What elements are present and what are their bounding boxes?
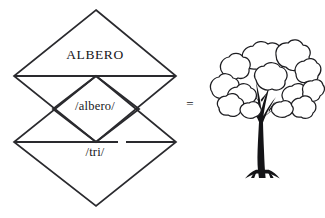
tree-illustration bbox=[210, 40, 324, 179]
phonetic-label: /tri/ bbox=[0, 146, 190, 159]
equals-sign: = bbox=[179, 97, 201, 110]
phonemic-label: /albero/ bbox=[0, 100, 190, 113]
word-label: ALBERO bbox=[0, 48, 190, 62]
tree-canopy bbox=[210, 40, 324, 119]
sign-diagram: ALBERO /albero/ /tri/ = bbox=[0, 0, 325, 218]
